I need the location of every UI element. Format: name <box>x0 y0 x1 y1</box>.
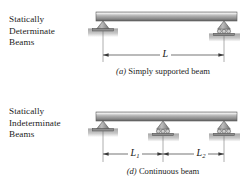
roller-support-right <box>209 121 240 142</box>
roller-support-right <box>209 21 240 42</box>
panel-statically-determinate: Statically Determinate Beams <box>0 0 250 92</box>
dimension-label-L2-subscript: 2 <box>202 152 205 159</box>
caption-tag-d: (d) <box>127 166 137 176</box>
roller-support-middle <box>148 121 179 142</box>
simply-supported-beam-drawing <box>0 0 250 92</box>
dimension-label-L2: L2 <box>194 148 208 159</box>
beam-member <box>96 112 237 121</box>
caption-text-d: Continuous beam <box>137 166 200 176</box>
dimension-label-L1-subscript: 1 <box>136 152 139 159</box>
caption-continuous-beam: (d) Continuous beam <box>88 166 238 176</box>
caption-tag-a: (a) <box>116 66 126 76</box>
beam-member <box>96 12 237 21</box>
beam-diagram-figure: Statically Determinate Beams <box>0 0 250 184</box>
dimension-label-L: L <box>160 49 171 59</box>
caption-simply-supported-beam: (a) Simply supported beam <box>88 66 238 76</box>
dimension-label-L1: L1 <box>128 148 142 159</box>
dimension-label-L-text: L <box>163 48 169 59</box>
caption-text-a: Simply supported beam <box>126 66 210 76</box>
